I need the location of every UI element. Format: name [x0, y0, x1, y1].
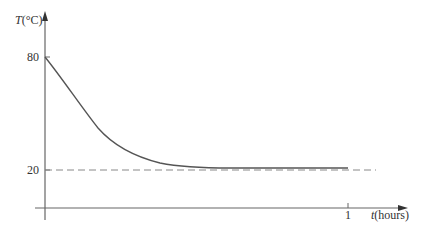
y-tick-label-80: 80: [27, 50, 39, 64]
temperature-curve: [45, 57, 348, 168]
y-axis-arrow-icon: [42, 11, 48, 21]
cooling-curve-chart: T(°C) 80 20 1 t(hours): [0, 0, 421, 235]
y-axis-label: T(°C): [15, 13, 42, 27]
x-tick-label-1: 1: [345, 208, 351, 222]
y-tick-label-20: 20: [27, 163, 39, 177]
x-axis-label: t(hours): [371, 208, 409, 222]
